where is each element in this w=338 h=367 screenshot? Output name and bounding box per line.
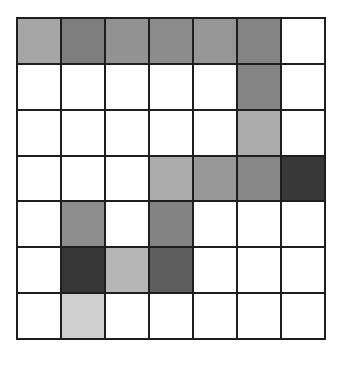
grid-cell bbox=[106, 19, 148, 63]
grid-cell bbox=[106, 248, 148, 292]
grid-cell bbox=[150, 19, 192, 63]
shaded-grid bbox=[16, 17, 326, 340]
grid-cell bbox=[62, 248, 104, 292]
grid-cell bbox=[106, 294, 148, 338]
grid-cell bbox=[150, 111, 192, 155]
grid-cell bbox=[238, 157, 280, 201]
grid-cell bbox=[106, 202, 148, 246]
grid-cell bbox=[18, 248, 60, 292]
grid-cell bbox=[194, 19, 236, 63]
grid-cell bbox=[106, 65, 148, 109]
grid-cell bbox=[238, 19, 280, 63]
grid-cell bbox=[62, 202, 104, 246]
grid-cell bbox=[150, 157, 192, 201]
grid-cell bbox=[18, 19, 60, 63]
grid-cell bbox=[238, 111, 280, 155]
grid-cell bbox=[194, 202, 236, 246]
grid-cell bbox=[282, 157, 324, 201]
grid-cell bbox=[282, 248, 324, 292]
grid-cell bbox=[238, 202, 280, 246]
grid-cell bbox=[62, 19, 104, 63]
grid-cell bbox=[282, 19, 324, 63]
grid-cell bbox=[62, 65, 104, 109]
grid-cell bbox=[106, 157, 148, 201]
grid-cell bbox=[194, 248, 236, 292]
grid-cell bbox=[150, 202, 192, 246]
grid-cell bbox=[18, 157, 60, 201]
grid-cell bbox=[150, 294, 192, 338]
grid-cell bbox=[238, 248, 280, 292]
grid-cell bbox=[282, 111, 324, 155]
grid-cell bbox=[18, 111, 60, 155]
grid-cell bbox=[18, 202, 60, 246]
grid-cell bbox=[18, 65, 60, 109]
grid-cell bbox=[62, 157, 104, 201]
grid-cell bbox=[194, 65, 236, 109]
grid-cell bbox=[194, 157, 236, 201]
grid-cell bbox=[62, 111, 104, 155]
grid-cell bbox=[150, 248, 192, 292]
grid-cell bbox=[150, 65, 192, 109]
grid-cell bbox=[62, 294, 104, 338]
grid-cell bbox=[282, 202, 324, 246]
grid-cell bbox=[194, 294, 236, 338]
grid-cell bbox=[282, 294, 324, 338]
grid-cell bbox=[194, 111, 236, 155]
grid-cell bbox=[238, 65, 280, 109]
grid-cell bbox=[282, 65, 324, 109]
grid-cell bbox=[18, 294, 60, 338]
grid-cell bbox=[106, 111, 148, 155]
grid-cell bbox=[238, 294, 280, 338]
